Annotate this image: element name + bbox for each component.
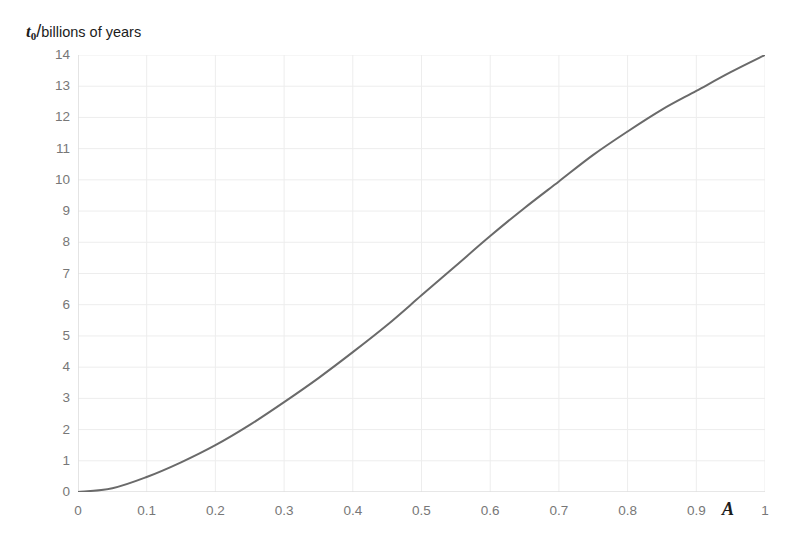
x-tick-label: 0 — [48, 504, 108, 518]
y-axis-unit-text: billions of years — [41, 24, 141, 40]
x-tick-label: 0.1 — [117, 504, 177, 518]
x-tick-label: 0.7 — [529, 504, 589, 518]
x-tick-label: 0.9 — [666, 504, 726, 518]
gridlines — [78, 55, 765, 492]
plot-area — [78, 55, 765, 492]
y-tick-label: 10 — [26, 173, 70, 187]
y-tick-label: 5 — [26, 329, 70, 343]
y-tick-label: 12 — [26, 110, 70, 124]
y-tick-label: 1 — [26, 454, 70, 468]
y-tick-label: 9 — [26, 204, 70, 218]
y-tick-label: 0 — [26, 485, 70, 499]
y-tick-label: 13 — [26, 79, 70, 93]
y-tick-label: 4 — [26, 360, 70, 374]
y-tick-label: 2 — [26, 423, 70, 437]
y-tick-label: 6 — [26, 298, 70, 312]
x-tick-label: 0.8 — [598, 504, 658, 518]
x-tick-label: 0.4 — [323, 504, 383, 518]
x-tick-label: 0.2 — [185, 504, 245, 518]
y-tick-label: 11 — [26, 142, 70, 156]
y-tick-label: 8 — [26, 235, 70, 249]
x-tick-label: 1 — [735, 504, 795, 518]
x-tick-label: 0.3 — [254, 504, 314, 518]
x-tick-label: 0.5 — [392, 504, 452, 518]
y-tick-label: 3 — [26, 391, 70, 405]
plot-svg — [78, 55, 765, 492]
y-tick-label: 7 — [26, 267, 70, 281]
chart-figure: t0/billions of years A 01234567891011121… — [0, 0, 798, 549]
y-tick-label: 14 — [26, 48, 70, 62]
x-tick-label: 0.6 — [460, 504, 520, 518]
y-axis-label: t0/billions of years — [26, 22, 141, 42]
